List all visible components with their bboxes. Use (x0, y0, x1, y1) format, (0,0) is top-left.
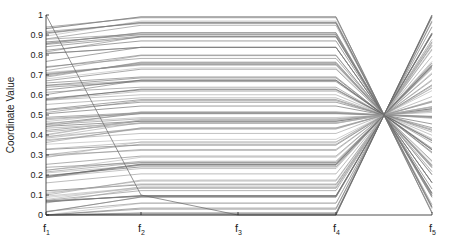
data-line (46, 34, 432, 202)
y-tick-label: 0 (38, 210, 43, 220)
y-tick-label: 0.7 (30, 70, 43, 80)
y-tick-label: 0.4 (30, 130, 43, 140)
x-axis-labels: f1f2f3f4f5 (43, 222, 436, 236)
parallel-coordinates-chart: Coordinate Value f1f2f3f4f5 00.10.20.30.… (0, 0, 451, 243)
data-lines (46, 15, 432, 215)
y-tick-label: 0.9 (30, 30, 43, 40)
y-axis-label: Coordinate Value (5, 76, 16, 153)
y-tick-label: 0.8 (30, 50, 43, 60)
x-tick-label: f2 (138, 222, 145, 236)
data-line (46, 61, 432, 177)
y-tick-label: 0.3 (30, 150, 43, 160)
data-line (46, 80, 432, 155)
y-tick-label: 1 (38, 10, 43, 20)
x-tick-label: f4 (333, 222, 340, 236)
x-tick-label: f5 (429, 222, 436, 236)
y-tick-label: 0.1 (30, 190, 43, 200)
y-tick-label: 0.6 (30, 90, 43, 100)
x-tick-label: f1 (43, 222, 50, 236)
y-tick-label: 0.2 (30, 170, 43, 180)
x-tick-label: f3 (235, 222, 242, 236)
y-tick-label: 0.5 (30, 110, 43, 120)
